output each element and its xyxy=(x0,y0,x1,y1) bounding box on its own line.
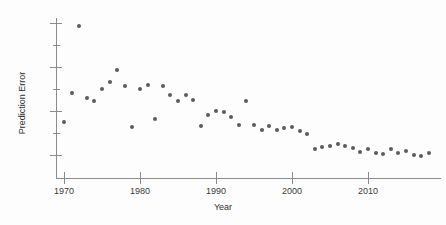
data-point xyxy=(115,68,119,72)
data-point xyxy=(328,144,332,148)
data-point xyxy=(161,84,165,88)
data-point xyxy=(374,151,378,155)
data-point xyxy=(222,110,226,114)
x-axis-title: Year xyxy=(0,202,446,212)
data-point xyxy=(229,115,233,119)
data-point xyxy=(412,153,416,157)
data-point xyxy=(404,149,408,153)
data-point xyxy=(358,150,362,154)
data-point xyxy=(153,117,157,121)
data-point xyxy=(70,91,74,95)
data-point xyxy=(191,98,195,102)
data-point xyxy=(237,123,241,127)
data-point xyxy=(85,96,89,100)
data-point xyxy=(366,147,370,151)
data-point xyxy=(244,99,248,103)
data-point xyxy=(77,24,81,28)
data-point xyxy=(176,99,180,103)
data-point xyxy=(252,123,256,127)
data-point xyxy=(168,93,172,97)
data-point xyxy=(260,128,264,132)
data-point xyxy=(130,125,134,129)
data-point xyxy=(389,147,393,151)
chart-figure: 100300500700 19701980199020002010 Predic… xyxy=(0,0,446,225)
data-point xyxy=(419,154,423,158)
data-point xyxy=(351,146,355,150)
data-point xyxy=(214,109,218,113)
data-point xyxy=(62,120,66,124)
data-points-layer xyxy=(0,0,446,225)
data-point xyxy=(396,151,400,155)
data-point xyxy=(298,129,302,133)
data-point xyxy=(267,124,271,128)
data-point xyxy=(381,152,385,156)
data-point xyxy=(290,125,294,129)
data-point xyxy=(275,128,279,132)
data-point xyxy=(343,144,347,148)
y-axis-title: Prediction Error xyxy=(17,43,27,163)
data-point xyxy=(100,87,104,91)
data-point xyxy=(138,87,142,91)
data-point xyxy=(108,80,112,84)
data-point xyxy=(336,142,340,146)
data-point xyxy=(146,83,150,87)
data-point xyxy=(305,132,309,136)
data-point xyxy=(206,113,210,117)
data-point xyxy=(313,147,317,151)
data-point xyxy=(282,126,286,130)
data-point xyxy=(320,145,324,149)
data-point xyxy=(427,151,431,155)
data-point xyxy=(199,124,203,128)
data-point xyxy=(184,93,188,97)
data-point xyxy=(92,99,96,103)
data-point xyxy=(123,84,127,88)
scatter-plot-area: 100300500700 19701980199020002010 xyxy=(0,0,446,225)
